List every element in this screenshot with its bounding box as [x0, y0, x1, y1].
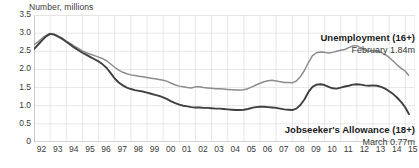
annotation-jobseekers-allowance: Jobseeker's Allowance (18+) March 0.77m	[285, 119, 415, 147]
x-tick-label: 93	[53, 144, 62, 154]
x-tick-label: 97	[117, 144, 126, 154]
x-tick-label: 98	[134, 144, 143, 154]
x-tick-label: 03	[214, 144, 223, 154]
y-tick-label: 3.0	[3, 27, 31, 37]
annotation-jsa-title: Jobseeker's Allowance (18+)	[285, 124, 415, 135]
x-tick-label: 06	[263, 144, 272, 154]
annotation-unemployment: Unemployment (16+) February 1.84m	[320, 27, 415, 55]
x-axis-tick-labels: 9293949596979899000102030405060708091011…	[34, 144, 415, 164]
y-tick-label: 1.0	[3, 100, 31, 110]
x-tick-label: 92	[37, 144, 46, 154]
y-tick-label: 3.5	[3, 9, 31, 19]
x-tick-label: 02	[198, 144, 207, 154]
annotation-unemployment-title: Unemployment (16+)	[320, 32, 415, 43]
y-tick-label: 2.5	[3, 45, 31, 55]
y-tick-label: 0	[3, 136, 31, 146]
x-tick-label: 01	[182, 144, 191, 154]
unemployment-line-chart: Number, millions 00.51.01.52.02.53.03.5 …	[0, 0, 419, 168]
y-axis-tick-labels: 00.51.01.52.02.53.03.5	[0, 15, 31, 142]
y-axis-title: Number, millions	[29, 2, 93, 12]
y-tick-label: 0.5	[3, 118, 31, 128]
x-tick-label: 95	[85, 144, 94, 154]
y-tick-label: 1.5	[3, 82, 31, 92]
x-tick-label: 05	[247, 144, 256, 154]
x-tick-label: 96	[101, 144, 110, 154]
annotation-jsa-value: March 0.77m	[285, 137, 415, 147]
x-tick-label: 04	[230, 144, 239, 154]
x-tick-label: 99	[150, 144, 159, 154]
annotation-unemployment-value: February 1.84m	[320, 45, 415, 55]
x-tick-label: 00	[166, 144, 175, 154]
x-tick-label: 94	[69, 144, 78, 154]
y-tick-label: 2.0	[3, 63, 31, 73]
